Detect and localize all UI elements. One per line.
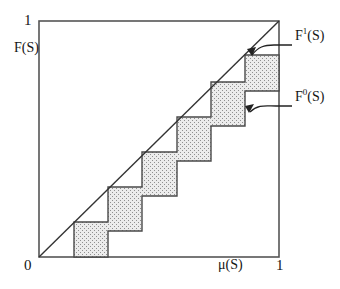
lower-step-curve-label: F0(S) bbox=[295, 88, 324, 104]
diagonal-reference-line bbox=[39, 21, 279, 257]
f0-arrow-icon bbox=[245, 104, 254, 113]
f0-base: F bbox=[295, 89, 303, 104]
y-axis-label: F(S) bbox=[14, 41, 39, 55]
origin-label: 0 bbox=[24, 258, 32, 273]
figure-container: 1 F(S) 0 μ(S) 1 F1(S) F0(S) bbox=[0, 0, 340, 289]
upper-step-curve-label: F1(S) bbox=[295, 27, 324, 43]
step-function-plot bbox=[0, 0, 340, 289]
f1-tail: (S) bbox=[307, 28, 324, 43]
x-axis-right-label: 1 bbox=[276, 258, 284, 273]
f1-base: F bbox=[295, 28, 303, 43]
f0-tail: (S) bbox=[307, 89, 324, 104]
shaded-step-region bbox=[74, 55, 279, 257]
y-axis-top-label: 1 bbox=[24, 13, 32, 28]
f1-leader-line bbox=[252, 45, 292, 55]
x-axis-label: μ(S) bbox=[218, 258, 243, 272]
f0-leader-line bbox=[250, 106, 292, 112]
